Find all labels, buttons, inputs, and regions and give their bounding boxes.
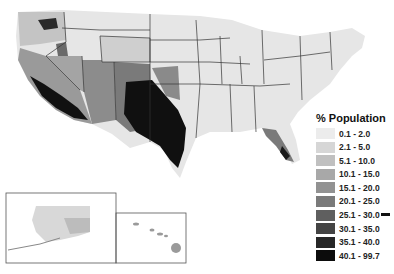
legend-swatch	[316, 196, 335, 207]
legend-marker	[381, 213, 390, 216]
legend-item: 40.1 - 99.7	[316, 249, 386, 262]
legend-label: 5.1 - 10.0	[339, 156, 375, 166]
legend-item: 25.1 - 30.0	[316, 209, 386, 222]
legend-item: 5.1 - 10.0	[316, 154, 386, 167]
legend: % Population 0.1 - 2.02.1 - 5.05.1 - 10.…	[316, 112, 386, 263]
legend-swatch	[316, 182, 335, 193]
legend-label: 15.1 - 20.0	[339, 183, 380, 193]
legend-swatch	[316, 128, 335, 139]
legend-title: % Population	[316, 112, 386, 124]
legend-item: 0.1 - 2.0	[316, 127, 386, 140]
hawaii-inset-frame	[116, 213, 186, 263]
legend-swatch	[316, 142, 335, 153]
legend-label: 10.1 - 15.0	[339, 169, 380, 179]
legend-swatch	[316, 155, 335, 166]
legend-label: 30.1 - 35.0	[339, 224, 380, 234]
legend-item: 2.1 - 5.0	[316, 141, 386, 154]
legend-item: 20.1 - 25.0	[316, 195, 386, 208]
legend-item: 30.1 - 35.0	[316, 222, 386, 235]
legend-item: 10.1 - 15.0	[316, 168, 386, 181]
legend-swatch	[316, 169, 335, 180]
legend-label: 35.1 - 40.0	[339, 237, 380, 247]
legend-swatch	[316, 237, 335, 248]
legend-label: 0.1 - 2.0	[339, 129, 370, 139]
legend-swatch	[316, 250, 335, 261]
legend-label: 20.1 - 25.0	[339, 196, 380, 206]
legend-item: 15.1 - 20.0	[316, 181, 386, 194]
legend-swatch	[316, 210, 335, 221]
legend-label: 40.1 - 99.7	[339, 251, 380, 261]
legend-label: 2.1 - 5.0	[339, 142, 370, 152]
legend-label: 25.1 - 30.0	[339, 210, 380, 220]
hawaii	[133, 223, 181, 254]
legend-item: 35.1 - 40.0	[316, 236, 386, 249]
legend-swatch	[316, 223, 335, 234]
